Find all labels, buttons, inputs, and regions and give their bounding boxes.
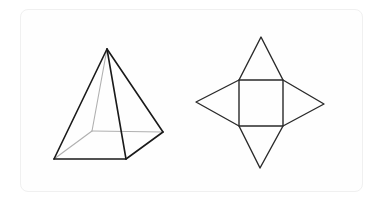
- figure-canvas: [0, 0, 381, 202]
- net-bottom-triangle: [239, 126, 283, 168]
- pyramid-hidden-edges: [54, 49, 163, 159]
- square-pyramid: [54, 49, 163, 159]
- pyramid-visible-edges: [54, 49, 163, 159]
- pyramid-net: [196, 37, 324, 168]
- net-base-square: [239, 80, 283, 126]
- net-top-triangle: [239, 37, 283, 80]
- net-left-triangle: [196, 80, 239, 126]
- net-right-triangle: [283, 80, 324, 126]
